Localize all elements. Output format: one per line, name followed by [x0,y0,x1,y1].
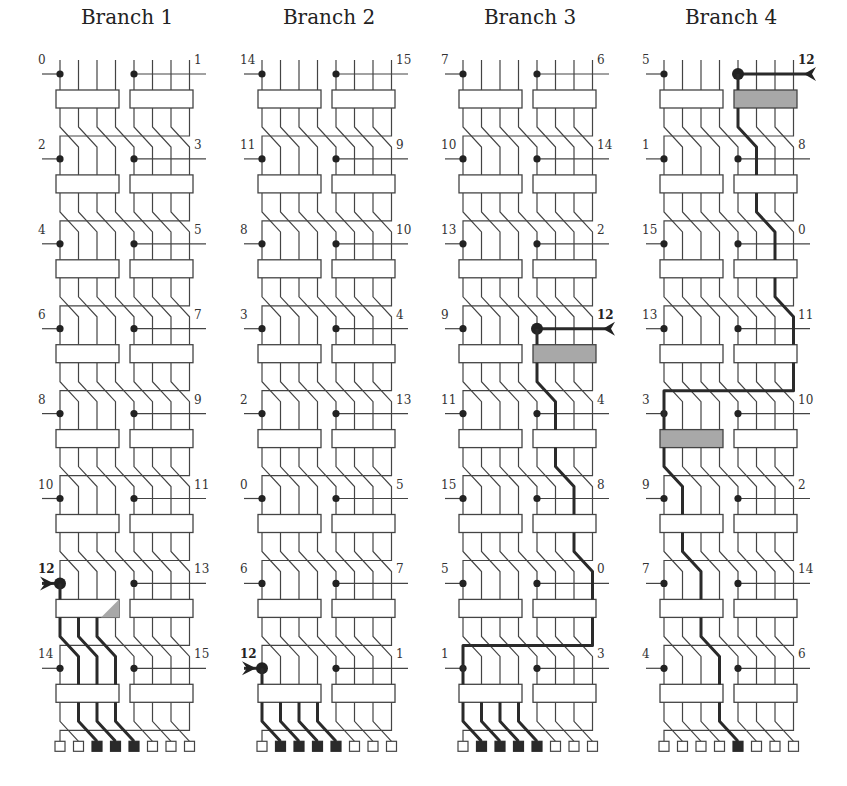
output-port-active [276,741,286,751]
input-node-right [533,240,540,247]
input-label-left: 13 [642,308,657,322]
output-port [368,741,378,751]
node-block-right [332,599,395,617]
node-block-right [130,90,193,108]
node-block-right [533,345,596,363]
input-node-left [459,410,466,417]
input-node-right [130,580,137,587]
node-block-left [258,684,321,702]
input-node-right [332,70,339,77]
input-label-left: 8 [240,223,248,237]
output-port [770,741,780,751]
input-node-right [130,410,137,417]
input-label-left: 5 [642,53,650,67]
input-node-left [660,495,667,502]
input-label-right: 1 [194,53,202,67]
output-port-active [294,741,304,751]
node-block-left [459,345,522,363]
input-node-left [258,240,265,247]
input-node-left [56,155,63,162]
node-block-right [332,515,395,533]
output-port [458,741,468,751]
input-node-right [332,665,339,672]
input-node-right [332,240,339,247]
branch-title: Branch 4 [685,5,777,29]
node-block-left [459,515,522,533]
output-port [55,741,65,751]
output-port [696,741,706,751]
input-node-left [258,325,265,332]
node-block-right [734,430,797,448]
node-block-right [130,430,193,448]
input-label-right: 9 [194,393,202,407]
output-port [74,741,84,751]
input-node-right [533,495,540,502]
input-label-left: 12 [240,647,257,661]
input-label-left: 9 [441,308,449,322]
node-block-right [130,345,193,363]
node-block-right [734,175,797,193]
input-label-right: 4 [396,308,404,322]
node-block-right [130,684,193,702]
input-node-right [130,325,137,332]
output-port [350,741,360,751]
input-node-right [332,410,339,417]
input-node-right [332,155,339,162]
input-label-left: 7 [441,53,449,67]
output-port [588,741,598,751]
input-node-left [459,70,466,77]
node-block-right [734,515,797,533]
output-port [678,741,688,751]
node-block-left [660,90,723,108]
output-port-active [532,741,542,751]
output-port-active [331,741,341,751]
input-label-left: 14 [38,647,54,661]
input-label-left: 3 [642,393,650,407]
input-label-left: 10 [38,478,53,492]
input-node-right [130,495,137,502]
input-node-right [533,155,540,162]
node-block-left [660,260,723,278]
input-node-right [734,325,741,332]
node-block-left [459,430,522,448]
input-node-left [56,240,63,247]
input-label-right: 3 [194,138,202,152]
input-node-left [56,325,63,332]
input-label-left: 14 [240,53,256,67]
node-block-left [459,684,522,702]
input-node-left [258,155,265,162]
input-label-right: 0 [798,223,806,237]
input-label-right: 3 [597,647,605,661]
node-block-right [533,684,596,702]
output-port [659,741,669,751]
input-node-left [56,70,63,77]
input-label-right: 12 [597,308,614,322]
input-label-left: 8 [38,393,46,407]
node-block-left [660,345,723,363]
node-block-left [258,175,321,193]
input-label-left: 11 [240,138,255,152]
input-node-left [258,70,265,77]
node-block-left [660,684,723,702]
node-block-left [56,260,119,278]
input-node-right [734,665,741,672]
input-node-left [660,325,667,332]
input-label-left: 15 [441,478,456,492]
node-block-left [56,684,119,702]
wires [42,60,206,741]
wires [244,60,408,741]
input-label-right: 2 [597,223,605,237]
output-port-active [313,741,323,751]
branch-network-diagram: Branch 10123456789101112131415Branch 214… [0,0,847,786]
node-block-left [660,175,723,193]
input-node-right [533,580,540,587]
node-block-left [258,515,321,533]
node-block-left [459,599,522,617]
input-node-right [332,495,339,502]
output-port [148,741,158,751]
input-label-left: 4 [38,223,46,237]
input-node-right [533,410,540,417]
node-block-right [533,260,596,278]
input-node-right [332,325,339,332]
input-node-right [734,495,741,502]
